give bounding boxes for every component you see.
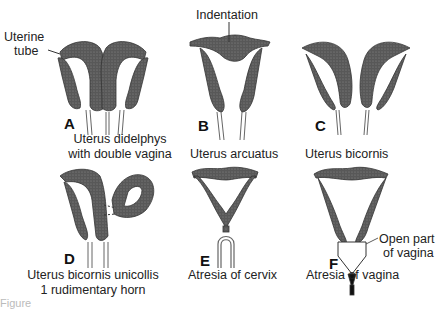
panel-e-drawing [192, 167, 258, 232]
panel-letter-b: B [198, 117, 209, 134]
figure-caption-partial: Figure [0, 297, 31, 309]
caption-e: Atresia of cervix [188, 268, 277, 282]
panel-a-drawing [58, 42, 148, 111]
panel-b-drawing [190, 35, 270, 112]
panel-letter-e: E [200, 252, 210, 269]
panel-letter-c: C [315, 117, 326, 134]
annotation-uterine-tube-1: Uterine [4, 30, 44, 44]
annotation-open-part-1: Open part [379, 232, 435, 246]
caption-b: Uterus arcuatus [190, 147, 278, 161]
annotation-indentation: Indentation [196, 8, 258, 22]
caption-c: Uterus bicornis [305, 147, 388, 161]
panel-c-drawing [302, 42, 410, 110]
caption-a-line1: Uterus didelphys [60, 132, 180, 146]
panel-letter-a: A [64, 115, 75, 132]
annotation-open-part-2: of vagina [383, 246, 434, 260]
panel-d-drawing [60, 169, 154, 240]
panel-letter-d: D [64, 250, 75, 267]
caption-d-line1: Uterus bicornis unicollis [18, 268, 168, 282]
annotation-uterine-tube-2: tube [14, 44, 38, 58]
caption-f: Atresia of vagina [306, 268, 399, 282]
caption-a-line2: with double vagina [60, 147, 180, 161]
caption-d-line2: 1 rudimentary horn [18, 283, 168, 297]
